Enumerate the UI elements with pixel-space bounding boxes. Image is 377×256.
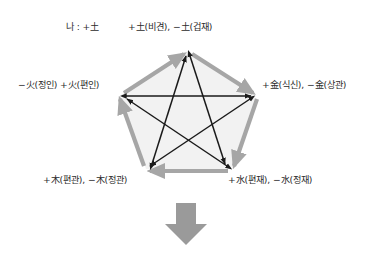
node-label-top: +土(비견), −土(겁재) bbox=[128, 22, 212, 33]
self-label: 나 : +土 bbox=[66, 22, 99, 33]
five-element-pentagram-diagram bbox=[0, 0, 377, 256]
pentagon-fill bbox=[121, 51, 256, 169]
node-label-left: −火(정인) +火(편인) bbox=[18, 80, 99, 91]
diagram-page: 나 : +土 +土(비견), −土(겁재) +金(식신), −金(상관) +水(… bbox=[0, 0, 377, 256]
flow-down-arrow bbox=[165, 203, 207, 245]
node-label-bottom-right: +水(편재), −水(정재) bbox=[228, 175, 312, 186]
node-label-right: +金(식신), −金(상관) bbox=[262, 80, 346, 91]
node-label-bottom-left: +木(편관), −木(정관) bbox=[43, 175, 127, 186]
